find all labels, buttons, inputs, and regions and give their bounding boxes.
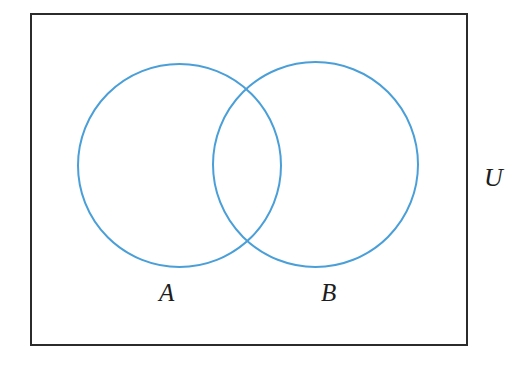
venn-diagram-figure: A B U xyxy=(0,0,531,368)
set-b-circle xyxy=(213,62,418,267)
universe-label: U xyxy=(484,165,503,191)
set-a-label: A xyxy=(159,280,174,305)
set-a-circle xyxy=(78,64,281,267)
venn-diagram-canvas xyxy=(0,0,531,368)
universe-rectangle xyxy=(31,14,467,345)
set-b-label: B xyxy=(321,280,336,305)
